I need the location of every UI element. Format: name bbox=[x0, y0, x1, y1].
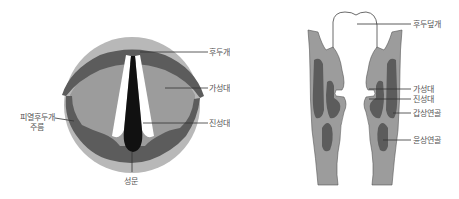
larynx-coronal-section-graphic: 후두덮개 가성대 진성대 갑상연골 윤상연골 bbox=[230, 0, 459, 199]
label-epiglottis: 후두덮개 bbox=[413, 19, 441, 29]
label-epiglottis: 후두개 bbox=[209, 47, 230, 57]
label-false-vocal-fold: 가성대 bbox=[209, 84, 230, 93]
larynx-top-view-diagram: 후두개 가성대 진성대 피열후두개 주름 성문 bbox=[0, 0, 230, 199]
label-cricoid-cartilage: 윤상연골 bbox=[413, 135, 441, 145]
larynx-coronal-section-diagram: 후두덮개 가성대 진성대 갑상연골 윤상연골 bbox=[230, 0, 459, 199]
label-true-vocal-fold: 진성대 bbox=[413, 94, 434, 104]
right-thyroid-cartilage bbox=[386, 59, 397, 119]
label-glottis: 성문 bbox=[124, 177, 138, 186]
label-true-vocal-fold: 진성대 bbox=[209, 118, 230, 128]
epiglottis-shape bbox=[333, 12, 377, 50]
label-false-vocal-fold: 가성대 bbox=[413, 85, 434, 94]
label-aryepiglottic-fold-line2: 주름 bbox=[30, 123, 44, 132]
label-aryepiglottic-fold-line1: 피열후두개 bbox=[20, 112, 55, 122]
larynx-top-view-graphic: 후두개 가성대 진성대 피열후두개 주름 성문 bbox=[0, 0, 230, 199]
label-thyroid-cartilage: 갑상연골 bbox=[413, 108, 441, 118]
left-thyroid-cartilage bbox=[313, 59, 324, 119]
